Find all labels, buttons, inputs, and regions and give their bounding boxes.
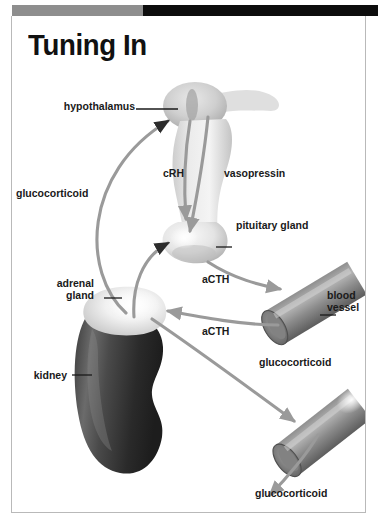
label-glucocorticoid-feedback: glucocorticoid [16,187,88,199]
pituitary-highlight [170,227,198,249]
kidney-adrenal-group [75,287,167,474]
label-vasopressin: vasopressin [224,167,285,179]
label-adrenal-gland-line1: adrenal [10,277,94,289]
label-pituitary-gland: pituitary gland [236,219,308,231]
label-kidney: kidney [5,369,67,381]
label-blood-vessel-line1: blood [327,289,356,301]
anatomy-illustration [12,17,365,512]
glucocorticoid-feedback-hypothalamus-arrow [97,121,168,313]
label-blood-vessel-line2: vessel [327,301,359,313]
label-adrenal-gland-line2: gland [10,289,94,301]
label-acth-lower: aCTH [202,325,229,337]
diagram-page: Tuning In [0,0,378,522]
blood-vessel-lower [267,381,365,482]
header-rule-gray [12,5,143,16]
label-glucocorticoid-release: glucocorticoid [259,356,331,368]
label-crh: cRH [163,167,184,179]
label-glucocorticoid-outflow: glucocorticoid [255,487,327,499]
label-acth-upper: aCTH [202,273,229,285]
label-hypothalamus: hypothalamus [20,100,135,112]
hypothalamus-sulcus [186,89,198,121]
header-rule-black [143,5,378,16]
